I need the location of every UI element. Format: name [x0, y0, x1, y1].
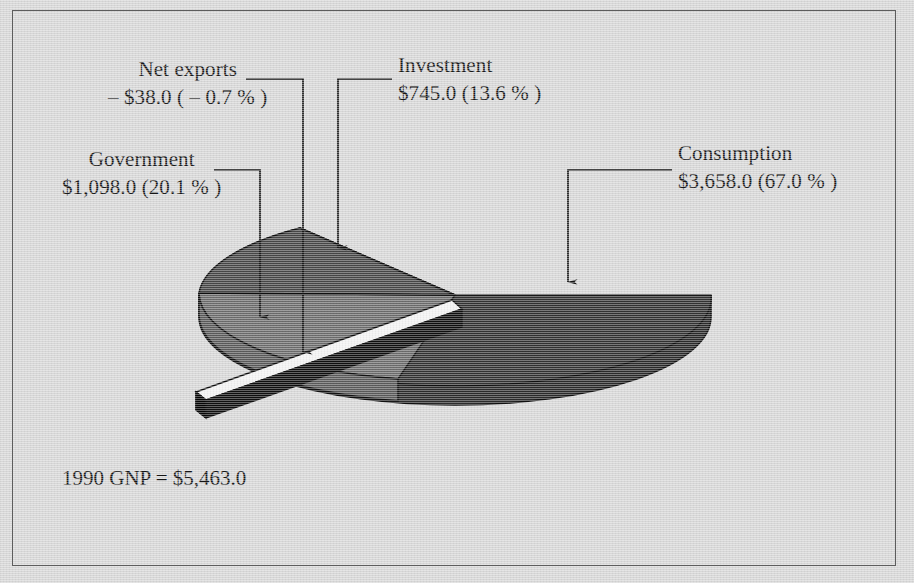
investment-title: Investment	[398, 52, 541, 80]
consumption-title: Consumption	[678, 140, 837, 168]
consumption-value: $3,658.0 (67.0 % )	[678, 168, 837, 196]
callout-label-government: Government $1,098.0 (20.1 % )	[62, 146, 221, 201]
callout-label-investment: Investment $745.0 (13.6 % )	[398, 52, 541, 107]
net-exports-title: Net exports	[108, 56, 267, 84]
chart-caption-total: 1990 GNP = $5,463.0	[62, 466, 246, 491]
government-value: $1,098.0 (20.1 % )	[62, 174, 221, 202]
net-exports-value: – $38.0 ( – 0.7 % )	[108, 84, 267, 112]
callout-label-consumption: Consumption $3,658.0 (67.0 % )	[678, 140, 837, 195]
government-title: Government	[62, 146, 221, 174]
leader-line-consumption	[568, 170, 672, 282]
pie-body	[196, 228, 711, 418]
figure-canvas: Net exports – $38.0 ( – 0.7 % ) Governme…	[0, 0, 914, 583]
investment-value: $745.0 (13.6 % )	[398, 80, 541, 108]
leader-line-investment	[338, 79, 392, 248]
slice-top-investment	[199, 228, 455, 295]
callout-label-net-exports: Net exports – $38.0 ( – 0.7 % )	[108, 56, 267, 111]
